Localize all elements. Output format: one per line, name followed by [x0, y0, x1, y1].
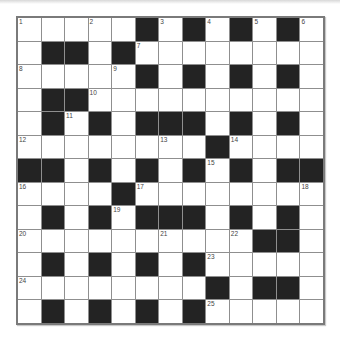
answer-cell[interactable]: 20: [18, 230, 41, 253]
answer-cell[interactable]: [253, 253, 276, 276]
answer-cell[interactable]: 8: [18, 65, 41, 88]
answer-cell[interactable]: [18, 206, 41, 229]
answer-cell[interactable]: [253, 89, 276, 112]
answer-cell[interactable]: [253, 300, 276, 323]
answer-cell[interactable]: 21: [159, 230, 182, 253]
answer-cell[interactable]: [112, 277, 135, 300]
answer-cell[interactable]: 13: [159, 136, 182, 159]
answer-cell[interactable]: [277, 42, 300, 65]
answer-cell[interactable]: [300, 42, 323, 65]
answer-cell[interactable]: [42, 183, 65, 206]
answer-cell[interactable]: [65, 277, 88, 300]
answer-cell[interactable]: [159, 300, 182, 323]
answer-cell[interactable]: [89, 183, 112, 206]
answer-cell[interactable]: [89, 230, 112, 253]
answer-cell[interactable]: [277, 183, 300, 206]
answer-cell[interactable]: [42, 18, 65, 41]
answer-cell[interactable]: [253, 136, 276, 159]
answer-cell[interactable]: [89, 65, 112, 88]
answer-cell[interactable]: [65, 18, 88, 41]
answer-cell[interactable]: [277, 136, 300, 159]
answer-cell[interactable]: [277, 253, 300, 276]
answer-cell[interactable]: 25: [206, 300, 229, 323]
answer-cell[interactable]: 3: [159, 18, 182, 41]
answer-cell[interactable]: [65, 65, 88, 88]
answer-cell[interactable]: 11: [65, 112, 88, 135]
answer-cell[interactable]: [183, 136, 206, 159]
answer-cell[interactable]: [65, 159, 88, 182]
answer-cell[interactable]: [112, 230, 135, 253]
answer-cell[interactable]: [277, 89, 300, 112]
answer-cell[interactable]: [300, 89, 323, 112]
answer-cell[interactable]: 14: [230, 136, 253, 159]
answer-cell[interactable]: [159, 253, 182, 276]
answer-cell[interactable]: [136, 136, 159, 159]
answer-cell[interactable]: [183, 42, 206, 65]
answer-cell[interactable]: [42, 65, 65, 88]
answer-cell[interactable]: [159, 42, 182, 65]
answer-cell[interactable]: [18, 112, 41, 135]
answer-cell[interactable]: [42, 277, 65, 300]
answer-cell[interactable]: 17: [136, 183, 159, 206]
answer-cell[interactable]: 18: [300, 183, 323, 206]
answer-cell[interactable]: [277, 300, 300, 323]
answer-cell[interactable]: [253, 206, 276, 229]
answer-cell[interactable]: [206, 42, 229, 65]
answer-cell[interactable]: [230, 300, 253, 323]
answer-cell[interactable]: [206, 65, 229, 88]
answer-cell[interactable]: [159, 89, 182, 112]
answer-cell[interactable]: [159, 159, 182, 182]
answer-cell[interactable]: [42, 136, 65, 159]
answer-cell[interactable]: [136, 230, 159, 253]
answer-cell[interactable]: [206, 112, 229, 135]
answer-cell[interactable]: [206, 230, 229, 253]
answer-cell[interactable]: [300, 65, 323, 88]
answer-cell[interactable]: [18, 42, 41, 65]
answer-cell[interactable]: [112, 89, 135, 112]
answer-cell[interactable]: 1: [18, 18, 41, 41]
answer-cell[interactable]: [300, 253, 323, 276]
answer-cell[interactable]: [159, 277, 182, 300]
answer-cell[interactable]: 15: [206, 159, 229, 182]
answer-cell[interactable]: [112, 300, 135, 323]
answer-cell[interactable]: [65, 230, 88, 253]
answer-cell[interactable]: 22: [230, 230, 253, 253]
answer-cell[interactable]: [159, 183, 182, 206]
answer-cell[interactable]: 23: [206, 253, 229, 276]
answer-cell[interactable]: [136, 89, 159, 112]
answer-cell[interactable]: [65, 206, 88, 229]
answer-cell[interactable]: 7: [136, 42, 159, 65]
answer-cell[interactable]: [230, 253, 253, 276]
answer-cell[interactable]: [183, 89, 206, 112]
answer-cell[interactable]: [206, 89, 229, 112]
answer-cell[interactable]: [230, 277, 253, 300]
answer-cell[interactable]: [183, 183, 206, 206]
answer-cell[interactable]: [112, 112, 135, 135]
answer-cell[interactable]: [300, 277, 323, 300]
answer-cell[interactable]: [230, 42, 253, 65]
answer-cell[interactable]: 4: [206, 18, 229, 41]
answer-cell[interactable]: [112, 159, 135, 182]
answer-cell[interactable]: [300, 230, 323, 253]
answer-cell[interactable]: [136, 277, 159, 300]
answer-cell[interactable]: [183, 230, 206, 253]
answer-cell[interactable]: [112, 253, 135, 276]
answer-cell[interactable]: [253, 159, 276, 182]
answer-cell[interactable]: [65, 300, 88, 323]
answer-cell[interactable]: [253, 65, 276, 88]
answer-cell[interactable]: [42, 230, 65, 253]
answer-cell[interactable]: [65, 136, 88, 159]
answer-cell[interactable]: [89, 42, 112, 65]
answer-cell[interactable]: 2: [89, 18, 112, 41]
answer-cell[interactable]: [18, 253, 41, 276]
answer-cell[interactable]: [18, 300, 41, 323]
answer-cell[interactable]: [253, 183, 276, 206]
answer-cell[interactable]: 12: [18, 136, 41, 159]
answer-cell[interactable]: [300, 112, 323, 135]
answer-cell[interactable]: [65, 183, 88, 206]
answer-cell[interactable]: [112, 18, 135, 41]
answer-cell[interactable]: [112, 136, 135, 159]
answer-cell[interactable]: [89, 277, 112, 300]
answer-cell[interactable]: [206, 206, 229, 229]
answer-cell[interactable]: [183, 277, 206, 300]
